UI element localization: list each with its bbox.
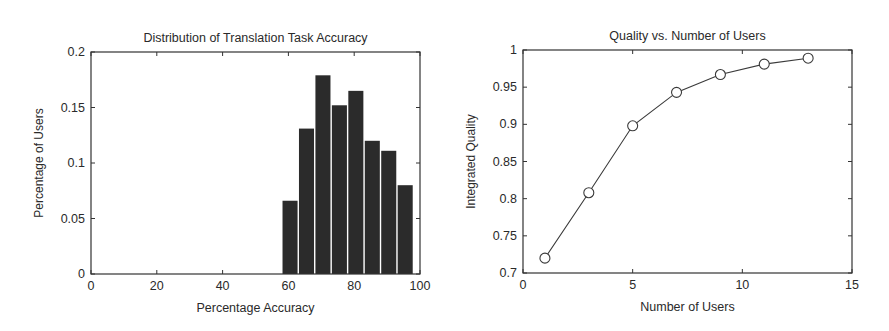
y-axis-label: Percentage of Users — [32, 108, 46, 217]
x-axis-label: Number of Users — [640, 300, 734, 314]
histogram-bar — [348, 91, 363, 274]
x-tick-label: 10 — [735, 278, 749, 292]
data-point-marker — [803, 53, 813, 63]
y-tick-label: 1 — [510, 43, 517, 57]
histogram-accuracy-chart: Distribution of Translation Task Accurac… — [0, 0, 445, 331]
data-point-marker — [759, 59, 769, 69]
histogram-bar — [283, 201, 298, 274]
y-tick-label: 0.8 — [500, 192, 517, 206]
histogram-svg: Distribution of Translation Task Accurac… — [0, 0, 445, 331]
y-tick-label: 0.2 — [68, 45, 85, 59]
histogram-bar — [398, 185, 413, 274]
histogram-bar — [299, 129, 314, 274]
x-tick-label: 20 — [150, 279, 164, 293]
x-tick-label: 80 — [347, 279, 361, 293]
y-tick-label: 0.75 — [493, 229, 517, 243]
quality-vs-users-chart: Quality vs. Number of Users0510150.70.75… — [445, 0, 889, 331]
x-tick-label: 100 — [410, 279, 431, 293]
y-tick-label: 0.05 — [61, 212, 85, 226]
y-tick-label: 0.9 — [500, 117, 517, 131]
data-point-marker — [628, 121, 638, 131]
histogram-bar — [381, 151, 396, 274]
data-point-marker — [584, 188, 594, 198]
y-tick-label: 0.1 — [68, 156, 85, 170]
y-axis-label: Integrated Quality — [464, 114, 478, 209]
chart-title: Distribution of Translation Task Accurac… — [143, 31, 368, 45]
x-tick-label: 40 — [216, 279, 230, 293]
y-tick-label: 0 — [78, 267, 85, 281]
data-point-marker — [672, 87, 682, 97]
x-tick-label: 0 — [88, 279, 95, 293]
y-tick-label: 0.85 — [493, 155, 517, 169]
histogram-bar — [315, 75, 330, 274]
x-tick-label: 5 — [629, 278, 636, 292]
histogram-bar — [332, 105, 347, 274]
data-point-marker — [715, 70, 725, 80]
y-tick-label: 0.95 — [493, 80, 517, 94]
line-chart-svg: Quality vs. Number of Users0510150.70.75… — [445, 0, 889, 331]
x-axis-label: Percentage Accuracy — [196, 301, 315, 315]
x-tick-label: 60 — [281, 279, 295, 293]
plot-area-border — [523, 50, 852, 273]
y-tick-label: 0.7 — [500, 266, 517, 280]
data-point-marker — [540, 253, 550, 263]
x-tick-label: 15 — [845, 278, 859, 292]
x-tick-label: 0 — [520, 278, 527, 292]
y-tick-label: 0.15 — [61, 101, 85, 115]
histogram-bar — [365, 141, 380, 274]
chart-title: Quality vs. Number of Users — [609, 29, 765, 43]
